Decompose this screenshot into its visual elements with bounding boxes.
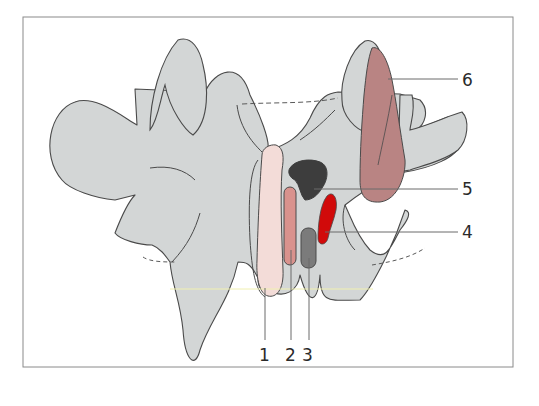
label-5: 5 xyxy=(462,179,473,199)
structure-1 xyxy=(257,145,283,296)
vertebra-diagram: 1 2 3 4 5 6 xyxy=(0,0,539,406)
label-3: 3 xyxy=(302,345,313,365)
structure-2 xyxy=(284,187,296,265)
label-4: 4 xyxy=(462,222,473,242)
label-6: 6 xyxy=(462,70,473,90)
label-1: 1 xyxy=(259,345,270,365)
label-2: 2 xyxy=(285,345,296,365)
